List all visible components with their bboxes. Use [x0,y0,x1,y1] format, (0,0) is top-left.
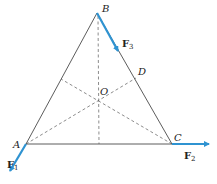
label-f2: F2 [184,150,196,163]
median-a-to-d [26,78,136,144]
label-b: B [101,3,109,14]
median-c [61,79,172,144]
label-o: O [100,86,108,97]
label-d: D [137,66,146,77]
label-a: A [12,139,20,150]
label-c: C [174,132,182,143]
median-b [98,16,99,144]
force-f3-arrow [97,13,118,51]
label-f3: F3 [122,38,134,51]
triangle-force-diagram: B D O A C F3 F2 F1 [0,0,217,184]
edge-ab [26,13,97,144]
